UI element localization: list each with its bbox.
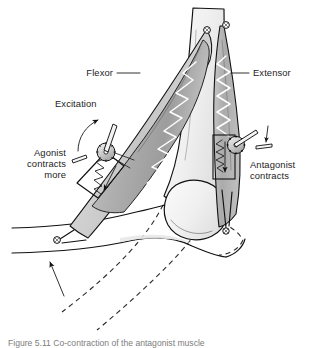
figure-caption: Figure 5.11 Co-contraction of the antago… (8, 338, 205, 348)
flexor-upper-anchor-pivot (204, 27, 211, 34)
extensor-lower-anchor-pivot (223, 228, 229, 234)
svg-text:contracts: contracts (27, 158, 66, 169)
svg-text:more: more (44, 169, 66, 180)
label-excitation: Excitation (55, 98, 97, 109)
label-flexor: Flexor (86, 67, 113, 78)
figure-root: Flexor Extensor Excitation Agonist contr… (0, 0, 310, 348)
muscle-joint-diagram: Flexor Extensor Excitation Agonist contr… (0, 0, 310, 348)
svg-text:Agonist: Agonist (34, 147, 66, 158)
svg-text:Antagonist: Antagonist (250, 159, 296, 170)
extensor-upper-anchor-pivot (223, 22, 230, 29)
flexor-lower-anchor-pivot (54, 237, 61, 244)
label-antagonist-contracts: Antagonist contracts (250, 159, 296, 181)
label-extensor: Extensor (253, 67, 291, 78)
svg-text:contracts: contracts (250, 170, 289, 181)
